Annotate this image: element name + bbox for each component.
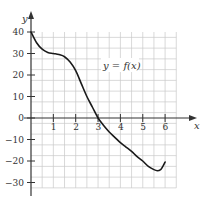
x-tick-label: 4 bbox=[118, 122, 124, 132]
grid-lines bbox=[31, 32, 176, 188]
x-tick-label: 3 bbox=[96, 122, 102, 132]
y-tick-label: 40 bbox=[13, 27, 25, 37]
y-tick-label: −10 bbox=[5, 135, 24, 145]
x-tick-label: 6 bbox=[163, 122, 169, 132]
y-tick-label: 10 bbox=[13, 92, 25, 102]
y-tick-label: 20 bbox=[13, 70, 25, 80]
function-label: y = f(x) bbox=[101, 58, 141, 72]
x-axis-label: x bbox=[194, 120, 200, 131]
svg-text:y = f(x): y = f(x) bbox=[102, 60, 141, 71]
x-tick-label: 5 bbox=[140, 122, 146, 132]
function-label-fx: f(x) bbox=[122, 60, 140, 71]
function-graph: 123456−30−20−10010203040 y = f(x) y x bbox=[0, 0, 204, 198]
y-tick-label: 0 bbox=[18, 113, 24, 123]
y-tick-label: −20 bbox=[5, 156, 24, 166]
x-tick-label: 1 bbox=[51, 122, 57, 132]
y-tick-label: 30 bbox=[13, 49, 25, 59]
function-label-eq: = bbox=[109, 60, 124, 71]
y-tick-label: −30 bbox=[5, 178, 24, 188]
y-axis-label: y bbox=[21, 13, 28, 24]
x-tick-label: 2 bbox=[73, 122, 79, 132]
axes bbox=[24, 11, 197, 196]
